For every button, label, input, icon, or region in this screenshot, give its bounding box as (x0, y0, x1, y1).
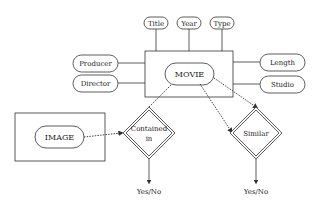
output-similar-yes-no: Yes/No (243, 188, 268, 196)
attribute-year[interactable]: Year (177, 17, 201, 29)
attribute-studio[interactable]: Studio (260, 76, 305, 93)
left-attribute-connectors (118, 63, 145, 83)
relation-contained-in[interactable]: Contained in (123, 107, 175, 159)
attribute-type-label: Type (213, 20, 230, 28)
attribute-director[interactable]: Director (73, 75, 118, 92)
attribute-length-label: Length (270, 59, 296, 67)
attribute-title-label: Title (148, 20, 164, 28)
attribute-producer[interactable]: Producer (73, 55, 118, 72)
right-attribute-connectors (233, 62, 260, 84)
attribute-length[interactable]: Length (260, 54, 305, 71)
relation-similar-label: Similar (243, 130, 269, 138)
movie-label: MOVIE (175, 70, 205, 79)
attribute-producer-label: Producer (79, 60, 112, 68)
image-entity[interactable]: IMAGE (35, 126, 84, 148)
movie-entity[interactable]: MOVIE (165, 63, 214, 85)
relation-contained-in-label-line1: Contained (131, 125, 168, 133)
attribute-studio-label: Studio (271, 81, 294, 89)
attribute-director-label: Director (81, 80, 111, 88)
image-label: IMAGE (45, 133, 75, 142)
relation-similar[interactable]: Similar (230, 107, 282, 159)
movie-image-diagram: MOVIE Title Year Type Producer Director … (0, 0, 317, 205)
attribute-title[interactable]: Title (144, 17, 168, 29)
attribute-year-label: Year (180, 20, 197, 28)
top-attribute-connectors (156, 29, 222, 51)
output-contained-in-yes-no: Yes/No (136, 188, 161, 196)
attribute-type[interactable]: Type (210, 17, 234, 29)
relation-contained-in-label-line2: in (146, 135, 153, 143)
output-arrows (149, 159, 256, 182)
